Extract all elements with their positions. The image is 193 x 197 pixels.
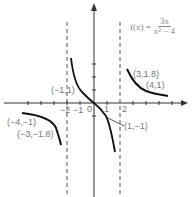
x-tick-label: 2: [122, 104, 127, 114]
x-tick-label: 0: [87, 104, 92, 114]
point-label: (4,1): [146, 80, 165, 90]
point-label: (−3,−1.8): [17, 129, 54, 139]
point-label: (−4,−1): [7, 117, 36, 127]
point-label: (3,1.8): [133, 69, 159, 79]
x-tick-label: −1: [73, 105, 83, 115]
formula-fraction: 3x x² − 4: [154, 17, 175, 36]
function-formula: f(x) = 3x x² − 4: [130, 17, 175, 36]
point-label: (1,−1): [124, 121, 148, 131]
x-tick-label: 1: [104, 104, 109, 114]
function-graph: f(x) = 3x x² − 4 −2 −1 0 1 2 (−1,1) (3,1…: [0, 0, 193, 197]
formula-lhs: f(x) =: [130, 22, 151, 32]
x-tick-label: −2: [60, 105, 70, 115]
y-axis-arrow-icon: [91, 3, 97, 11]
formula-denominator: x² − 4: [154, 27, 175, 36]
point-label: (−1,1): [51, 85, 75, 95]
x-axis-arrow-icon: [181, 100, 188, 106]
